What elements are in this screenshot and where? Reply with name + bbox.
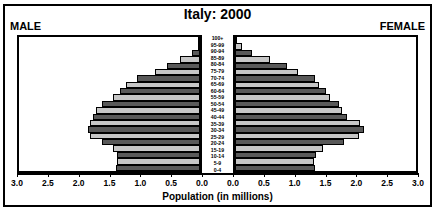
x-axis-tick-label: 1.0 <box>134 178 146 188</box>
x-axis-tick <box>356 173 357 177</box>
x-axis-line <box>17 173 418 175</box>
age-group-label: 35-39 <box>202 121 233 128</box>
x-axis-tick <box>17 173 18 177</box>
bar-row <box>19 165 200 171</box>
age-group-label: 80-84 <box>202 61 233 68</box>
age-group-label: 40-44 <box>202 114 233 121</box>
age-group-label: 55-59 <box>202 94 233 101</box>
x-axis-tick-label: 2.5 <box>42 178 54 188</box>
age-group-label: 30-34 <box>202 127 233 134</box>
age-group-label: 85-89 <box>202 55 233 62</box>
female-bar-rows <box>235 37 416 171</box>
x-axis-tick-label: 0.5 <box>165 178 177 188</box>
age-group-label: 50-54 <box>202 101 233 108</box>
x-axis-tick-label: 0.0 <box>196 178 208 188</box>
chart-title: Italy: 2000 <box>0 6 435 22</box>
x-axis-tick <box>79 173 80 177</box>
age-group-label: 0-4 <box>202 167 233 174</box>
age-group-label: 10-14 <box>202 153 233 160</box>
age-group-label: 95-99 <box>202 42 233 49</box>
x-axis-tick <box>171 173 172 177</box>
x-axis-tick-label: 2.5 <box>381 178 393 188</box>
x-axis-tick <box>264 173 265 177</box>
bar-row <box>235 165 416 171</box>
x-axis-tick-label: 2.0 <box>350 178 362 188</box>
age-group-label: 60-64 <box>202 88 233 95</box>
age-group-label: 45-49 <box>202 107 233 114</box>
age-group-label: 90-94 <box>202 48 233 55</box>
x-axis-tick-label: 1.5 <box>320 178 332 188</box>
x-axis-tick-label: 0.5 <box>258 178 270 188</box>
x-axis-tick <box>110 173 111 177</box>
age-group-labels: 100+95-9990-9485-8980-8475-7970-7465-696… <box>202 35 233 173</box>
bar <box>116 165 200 171</box>
population-pyramid-chart: Italy: 2000 MALE FEMALE 100+95-9990-9485… <box>0 0 435 215</box>
age-group-label: 25-29 <box>202 134 233 141</box>
age-group-label: 20-24 <box>202 140 233 147</box>
age-group-label: 65-69 <box>202 81 233 88</box>
female-legend-label: FEMALE <box>380 20 425 32</box>
x-axis-tick <box>418 173 419 177</box>
x-axis-tick-label: 3.0 <box>11 178 23 188</box>
x-axis-title: Population (in millions) <box>0 191 435 202</box>
male-legend-label: MALE <box>10 20 41 32</box>
x-axis-tick-label: 2.0 <box>73 178 85 188</box>
x-axis-tick <box>233 173 234 177</box>
x-axis-tick-label: 3.0 <box>412 178 424 188</box>
x-axis-tick <box>326 173 327 177</box>
bar <box>235 165 315 171</box>
x-axis-tick <box>140 173 141 177</box>
female-panel <box>233 35 418 173</box>
age-group-label: 75-79 <box>202 68 233 75</box>
x-axis-tick-label: 1.0 <box>289 178 301 188</box>
age-group-label: 15-19 <box>202 147 233 154</box>
x-axis-tick <box>48 173 49 177</box>
x-axis-tick <box>295 173 296 177</box>
male-panel <box>17 35 202 173</box>
x-axis-tick-label: 0.0 <box>227 178 239 188</box>
x-axis-tick-label: 1.5 <box>104 178 116 188</box>
age-group-label: 5-9 <box>202 160 233 167</box>
age-group-label: 70-74 <box>202 74 233 81</box>
x-axis-tick <box>202 173 203 177</box>
age-group-label: 100+ <box>202 35 233 42</box>
x-axis-tick <box>387 173 388 177</box>
male-bar-rows <box>19 37 200 171</box>
